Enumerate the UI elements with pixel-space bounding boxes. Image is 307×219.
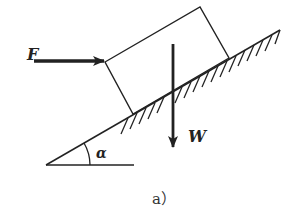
block bbox=[105, 7, 229, 114]
label-alpha: α bbox=[96, 145, 107, 161]
label-w: W bbox=[188, 127, 208, 146]
figure-caption: a） bbox=[152, 190, 176, 208]
angle-arc bbox=[84, 143, 90, 165]
incline-hatching bbox=[121, 30, 280, 134]
label-f: F bbox=[26, 45, 40, 64]
inclined-plane-diagram: F W α a） bbox=[0, 0, 307, 219]
